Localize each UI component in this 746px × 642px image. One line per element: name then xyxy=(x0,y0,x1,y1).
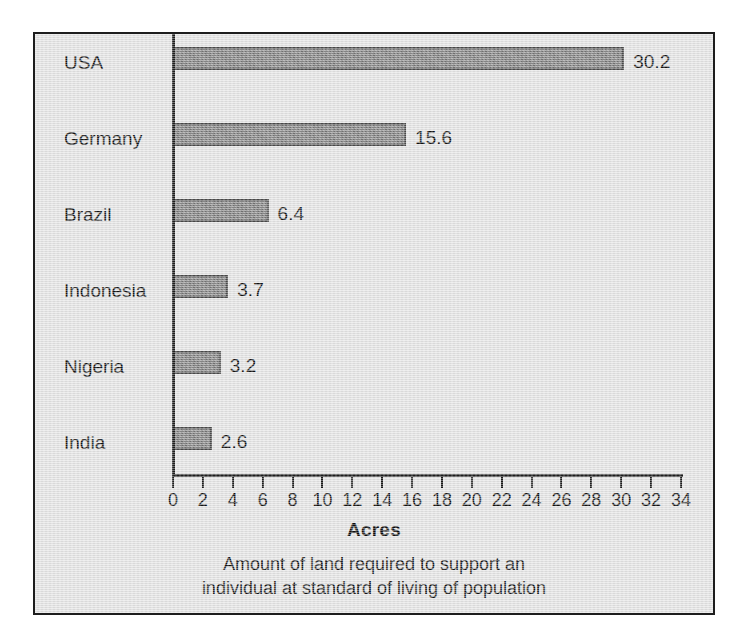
bar-nigeria xyxy=(173,351,221,374)
x-tick-26 xyxy=(560,477,562,488)
chart-caption: Amount of land required to support an in… xyxy=(35,553,713,601)
bar-value-usa: 30.2 xyxy=(633,52,670,71)
x-tick-12 xyxy=(351,477,353,488)
bar-germany xyxy=(173,123,406,146)
chart-figure: USA Germany Brazil Indonesia Nigeria Ind… xyxy=(33,32,715,615)
x-axis-line xyxy=(172,474,683,477)
x-tick-label-34: 34 xyxy=(661,491,701,509)
bar-india xyxy=(173,427,212,450)
x-tick-28 xyxy=(590,477,592,488)
bar-value-nigeria: 3.2 xyxy=(230,356,256,375)
category-label-indonesia: Indonesia xyxy=(64,281,146,300)
x-tick-4 xyxy=(232,477,234,488)
x-axis-title: Acres xyxy=(35,519,713,541)
bar-indonesia xyxy=(173,275,228,298)
x-tick-10 xyxy=(321,477,323,488)
x-tick-2 xyxy=(202,477,204,488)
category-label-brazil: Brazil xyxy=(64,205,112,224)
bar-value-germany: 15.6 xyxy=(415,128,452,147)
x-tick-34 xyxy=(680,477,682,488)
x-tick-24 xyxy=(531,477,533,488)
caption-line-1: Amount of land required to support an xyxy=(35,553,713,577)
category-label-nigeria: Nigeria xyxy=(64,357,124,376)
caption-line-2: individual at standard of living of popu… xyxy=(35,577,713,601)
category-label-germany: Germany xyxy=(64,129,142,148)
x-tick-32 xyxy=(650,477,652,488)
x-tick-8 xyxy=(292,477,294,488)
x-tick-30 xyxy=(620,477,622,488)
bar-brazil xyxy=(173,199,269,222)
y-axis-line xyxy=(172,34,175,476)
bar-value-indonesia: 3.7 xyxy=(237,280,263,299)
x-tick-20 xyxy=(471,477,473,488)
x-tick-0 xyxy=(172,477,174,488)
bar-usa xyxy=(173,47,624,70)
bar-value-brazil: 6.4 xyxy=(278,204,304,223)
chart-plot-area: USA Germany Brazil Indonesia Nigeria Ind… xyxy=(35,34,713,613)
x-tick-22 xyxy=(501,477,503,488)
bar-value-india: 2.6 xyxy=(221,432,247,451)
x-tick-14 xyxy=(381,477,383,488)
category-label-usa: USA xyxy=(64,53,103,72)
x-tick-18 xyxy=(441,477,443,488)
category-label-india: India xyxy=(64,433,105,452)
x-tick-16 xyxy=(411,477,413,488)
x-tick-6 xyxy=(262,477,264,488)
